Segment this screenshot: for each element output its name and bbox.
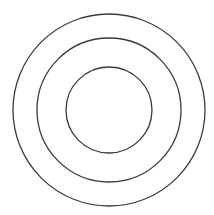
- middle-circle: [37, 38, 181, 182]
- outer-circle: [13, 14, 205, 206]
- inner-circle: [66, 67, 152, 153]
- concentric-circles-diagram: [0, 0, 214, 215]
